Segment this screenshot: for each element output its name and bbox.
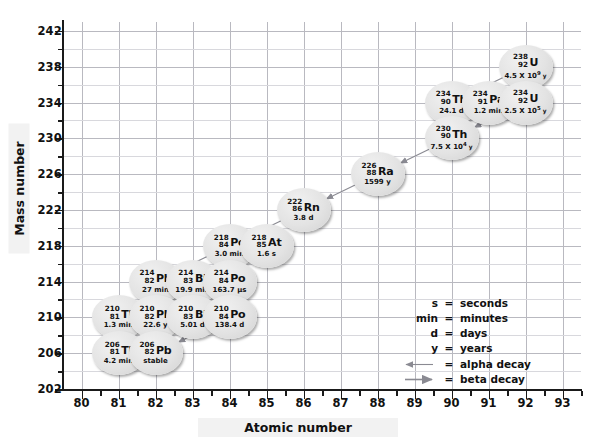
x-tick-label: 81 bbox=[99, 396, 139, 410]
y-tick-label: 206 bbox=[22, 346, 62, 360]
x-tick-label: 86 bbox=[284, 396, 324, 410]
x-axis-title: Atomic number bbox=[198, 418, 398, 437]
isotope-numbers: 21885 bbox=[252, 234, 267, 249]
legend-value: beta decay bbox=[460, 372, 531, 387]
nuclide-node-pb-206[interactable]: 20682Pbstable bbox=[129, 331, 183, 375]
y-axis-tick bbox=[58, 156, 63, 158]
element-symbol: U bbox=[529, 57, 538, 68]
half-life-label: 2.5 X 105 y bbox=[505, 105, 547, 115]
atomic-number: 84 bbox=[219, 241, 229, 248]
half-life-label: 1.6 s bbox=[257, 250, 276, 258]
y-tick-label: 210 bbox=[22, 310, 62, 324]
element-symbol: Th bbox=[452, 129, 467, 140]
legend-key: d bbox=[404, 326, 443, 341]
legend-key: y bbox=[404, 341, 443, 356]
x-tick-label: 87 bbox=[321, 396, 361, 410]
x-tick-label: 89 bbox=[395, 396, 435, 410]
gridline-horizontal bbox=[63, 228, 581, 229]
x-tick-label: 83 bbox=[173, 396, 213, 410]
atomic-number: 90 bbox=[441, 132, 451, 139]
nuclide-node-u-234[interactable]: 23492U2.5 X 105 y bbox=[499, 81, 553, 125]
legend-equals: = bbox=[443, 357, 460, 372]
isotope-label: 22286Rn bbox=[287, 198, 319, 213]
atomic-number: 86 bbox=[292, 205, 302, 212]
y-axis-tick bbox=[58, 335, 63, 337]
legend-equals: = bbox=[443, 311, 460, 326]
half-life-label: 4.5 X 109 y bbox=[505, 70, 547, 80]
isotope-numbers: 21083 bbox=[178, 305, 193, 320]
isotope-numbers: 23491 bbox=[473, 90, 488, 105]
legend-row: d=days bbox=[404, 326, 531, 341]
gridline-vertical bbox=[341, 22, 342, 389]
nuclide-node-ra-226[interactable]: 22688Ra1599 y bbox=[351, 152, 405, 196]
legend-key bbox=[404, 372, 443, 387]
isotope-numbers: 23490 bbox=[436, 90, 451, 105]
isotope-label: 20682Pb bbox=[139, 341, 171, 356]
atomic-number: 83 bbox=[183, 277, 193, 284]
x-tick-label: 84 bbox=[210, 396, 250, 410]
atomic-number: 88 bbox=[366, 169, 376, 176]
legend-key: min bbox=[404, 311, 443, 326]
y-axis-tick bbox=[58, 264, 63, 266]
gridline-horizontal bbox=[63, 49, 581, 50]
y-tick-label: 202 bbox=[22, 382, 62, 396]
legend-equals: = bbox=[443, 372, 460, 387]
atomic-number: 82 bbox=[144, 313, 154, 320]
isotope-label: 21084Po bbox=[214, 305, 246, 320]
y-tick-label: 242 bbox=[22, 24, 62, 38]
half-life-label: stable bbox=[143, 357, 167, 365]
isotope-numbers: 21082 bbox=[139, 305, 154, 320]
isotope-numbers: 22688 bbox=[361, 162, 376, 177]
isotope-label: 23892U bbox=[513, 53, 538, 68]
legend-row: min=minutes bbox=[404, 311, 531, 326]
gridline-horizontal bbox=[63, 246, 581, 247]
isotope-label: 23090Th bbox=[436, 125, 467, 140]
x-tick-label: 88 bbox=[358, 396, 398, 410]
y-axis-tick bbox=[58, 371, 63, 373]
element-symbol: Po bbox=[230, 309, 245, 320]
legend-value: minutes bbox=[460, 311, 531, 326]
gridline-horizontal bbox=[63, 138, 581, 139]
atomic-number: 92 bbox=[518, 61, 528, 68]
half-life-label: 7.5 X 104 y bbox=[431, 141, 473, 151]
alpha-decay-icon bbox=[404, 360, 434, 369]
element-symbol: Pb bbox=[156, 345, 172, 356]
y-axis-tick bbox=[58, 120, 63, 122]
half-life-label: 1599 y bbox=[364, 178, 390, 186]
legend-row: s=seconds bbox=[404, 296, 531, 311]
isotope-numbers: 21483 bbox=[178, 269, 193, 284]
x-tick-label: 91 bbox=[469, 396, 509, 410]
element-symbol: At bbox=[268, 237, 281, 248]
half-life-label: 5.01 d bbox=[180, 321, 205, 329]
legend-equals: = bbox=[443, 341, 460, 356]
nuclide-node-at-218[interactable]: 21885At1.6 s bbox=[240, 224, 294, 268]
nuclide-node-th-230[interactable]: 23090Th7.5 X 104 y bbox=[425, 116, 479, 160]
legend-value: seconds bbox=[460, 296, 531, 311]
x-tick-label: 93 bbox=[543, 396, 583, 410]
atomic-number: 91 bbox=[478, 98, 488, 105]
y-tick-label: 214 bbox=[22, 275, 62, 289]
y-tick-label: 234 bbox=[22, 96, 62, 110]
y-tick-label: 238 bbox=[22, 60, 62, 74]
element-symbol: Po bbox=[230, 273, 245, 284]
isotope-numbers: 23090 bbox=[436, 125, 451, 140]
nuclide-node-rn-222[interactable]: 22286Rn3.8 d bbox=[277, 188, 331, 232]
half-life-label: 22.6 y bbox=[143, 321, 167, 329]
element-symbol: Ra bbox=[378, 166, 394, 177]
atomic-number: 85 bbox=[257, 241, 267, 248]
half-life-label: 3.8 d bbox=[294, 214, 314, 222]
x-tick-label: 90 bbox=[432, 396, 472, 410]
isotope-numbers: 21484 bbox=[214, 269, 229, 284]
atomic-number: 81 bbox=[110, 348, 120, 355]
atomic-number: 82 bbox=[144, 277, 154, 284]
decay-series-chart: 202206210214218222226230234238242 808182… bbox=[0, 0, 596, 442]
atomic-number: 92 bbox=[518, 97, 528, 104]
legend: s=secondsmin=minutesd=daysy=years=alpha … bbox=[404, 296, 531, 387]
legend-key bbox=[404, 357, 443, 372]
gridline-horizontal bbox=[63, 156, 581, 157]
nuclide-node-po-210[interactable]: 21084Po138.4 d bbox=[203, 295, 257, 339]
element-symbol: Rn bbox=[304, 202, 320, 213]
y-axis-tick bbox=[58, 299, 63, 301]
isotope-numbers: 20682 bbox=[139, 341, 154, 356]
legend-value: days bbox=[460, 326, 531, 341]
